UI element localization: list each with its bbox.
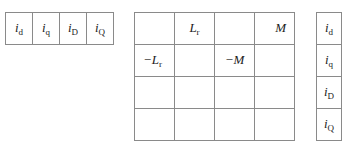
subscript: q [329,59,334,69]
matrix-row: −Lr −M [135,45,295,77]
column-vector-cell: iq [317,45,342,77]
inductance-matrix: Lr M −Lr −M [134,12,295,141]
subscript: D [72,27,79,37]
matrix-cell: M [255,13,295,45]
symbol: −L [143,52,159,67]
matrix-row [135,77,295,109]
subscript: d [329,27,334,37]
matrix-cell [135,77,175,109]
subscript: r [159,59,162,69]
symbol: M [275,20,286,35]
subscript: Q [99,27,106,37]
matrix-cell: −Lr [135,45,175,77]
row-vector-current: id iq iD iQ [5,12,114,45]
subscript: d [19,27,24,37]
row-vector-cell: iD [60,13,87,45]
matrix-row [135,109,295,141]
matrix-cell: Lr [175,13,215,45]
matrix-cell: −M [215,45,255,77]
symbol: −M [225,52,245,67]
matrix-cell [175,77,215,109]
matrix-cell [255,45,295,77]
matrix-cell [215,13,255,45]
column-vector-cell: id [317,13,342,45]
column-vector-cell: iQ [317,109,342,141]
matrix-cell [175,45,215,77]
column-vector-current: id iq iD iQ [316,12,342,141]
matrix-cell [215,109,255,141]
matrix-cell [135,13,175,45]
matrix-cell [255,109,295,141]
subscript: Q [328,123,335,133]
matrix-cell [175,109,215,141]
subscript: q [46,27,51,37]
subscript: r [197,27,200,37]
row-vector-cell: iq [33,13,60,45]
row-vector-cell: iQ [87,13,114,45]
row-vector-cell: id [6,13,33,45]
matrix-cell [215,77,255,109]
column-vector-cell: iD [317,77,342,109]
matrix-cell [135,109,175,141]
symbol: L [189,20,196,35]
matrix-row: Lr M [135,13,295,45]
matrix-cell [255,77,295,109]
subscript: D [328,91,335,101]
